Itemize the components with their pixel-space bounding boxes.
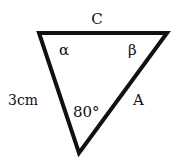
angle-label-80: 80° [73,103,100,121]
side-label-c: C [91,10,102,28]
side-label-a: A [132,91,144,109]
angle-label-beta: β [128,41,137,59]
side-label-left: 3cm [8,92,38,108]
angle-label-alpha: α [59,41,69,59]
triangle-diagram: C 3cm A α β 80° [0,0,177,165]
